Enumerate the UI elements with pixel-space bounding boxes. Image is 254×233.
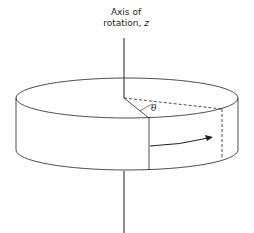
radius-line xyxy=(124,98,149,118)
angle-label: θ xyxy=(151,103,156,113)
dashed-radius-line xyxy=(124,98,222,109)
rotating-disk-diagram xyxy=(0,0,254,233)
disk-bottom-edge xyxy=(16,150,238,170)
arrow-head-icon xyxy=(205,135,213,141)
rotation-arrow xyxy=(150,138,208,146)
